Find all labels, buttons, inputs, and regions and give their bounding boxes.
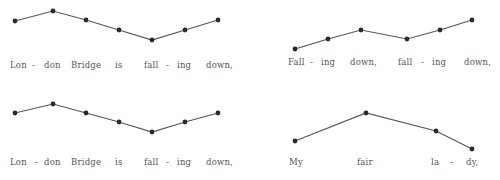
contour-line	[15, 11, 218, 40]
pitch-dot	[51, 9, 56, 14]
lyric-syllable: Lon	[10, 157, 27, 167]
lyric-syllable: My	[289, 157, 303, 167]
lyric-syllable: is	[115, 60, 122, 70]
contour-line	[295, 20, 472, 49]
lyric-syllable: down,	[464, 57, 491, 67]
pitch-dot	[293, 139, 298, 144]
pitch-dot	[13, 19, 18, 24]
lyric-syllable: down,	[206, 157, 233, 167]
lyric-syllable: -	[35, 157, 38, 167]
lyric-syllable: down,	[350, 57, 377, 67]
lyric-syllable: down,	[206, 60, 233, 70]
pitch-dot	[405, 37, 410, 42]
lyric-syllable: ing	[177, 60, 191, 70]
lyric-syllable: fall	[398, 57, 412, 67]
contour-panel-3	[13, 102, 221, 135]
pitch-dot	[438, 28, 443, 33]
lyric-syllable: fall	[144, 60, 158, 70]
lyric-syllable: -	[166, 60, 169, 70]
pitch-dot	[183, 120, 188, 125]
lyric-syllable: don	[44, 60, 61, 70]
contour-panel-1	[13, 9, 221, 43]
lyric-syllable: -	[421, 57, 424, 67]
lyric-syllable: ing	[177, 157, 191, 167]
lyric-syllable: Lon	[10, 60, 27, 70]
lyric-syllable: fall	[144, 157, 158, 167]
pitch-dot	[326, 37, 331, 42]
lyric-syllable: fair	[357, 157, 373, 167]
pitch-dot	[216, 18, 221, 23]
lyric-syllable: Fall	[288, 57, 305, 67]
pitch-dot	[51, 102, 56, 107]
pitch-dot	[470, 18, 475, 23]
contour-panel-2	[293, 18, 475, 52]
pitch-dot	[150, 130, 155, 135]
melody-contour-diagram: Lon-donBridgeisfall-ingdown,Fall-ingdown…	[0, 0, 500, 180]
pitch-dot	[117, 120, 122, 125]
lyric-syllable: -	[166, 157, 169, 167]
pitch-dot	[434, 129, 439, 134]
lyric-syllable: is	[115, 157, 122, 167]
pitch-dot	[293, 47, 298, 52]
lyric-syllable: Bridge	[71, 157, 101, 167]
pitch-dot	[84, 18, 89, 23]
lyric-syllable: ing	[432, 57, 446, 67]
lyric-syllable: dy,	[466, 157, 478, 167]
contour-line	[295, 113, 472, 149]
pitch-dot	[359, 28, 364, 33]
lyric-syllable: Bridge	[71, 60, 101, 70]
contour-line	[15, 104, 218, 132]
lyric-syllable: la	[431, 157, 439, 167]
pitch-dot	[84, 111, 89, 116]
lyric-syllable: -	[310, 57, 313, 67]
pitch-dot	[470, 147, 475, 152]
lyric-syllable: don	[44, 157, 61, 167]
pitch-contour-lines	[0, 0, 500, 180]
lyric-syllable: ing	[321, 57, 335, 67]
pitch-dot	[183, 28, 188, 33]
lyric-syllable: -	[32, 60, 35, 70]
contour-panel-4	[293, 111, 475, 152]
lyric-syllable: -	[450, 157, 453, 167]
pitch-dot	[150, 38, 155, 43]
pitch-dot	[216, 111, 221, 116]
pitch-dot	[364, 111, 369, 116]
pitch-dot	[13, 111, 18, 116]
pitch-dot	[117, 28, 122, 33]
